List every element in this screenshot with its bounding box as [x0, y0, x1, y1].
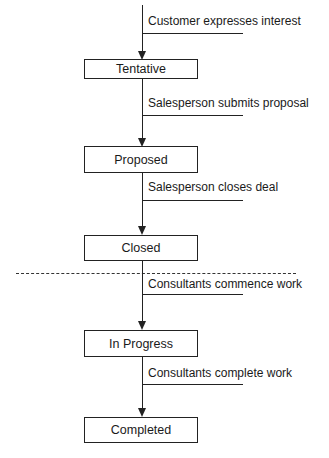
transition-label: Consultants complete work	[148, 366, 292, 380]
transition-branch	[142, 33, 243, 34]
transition-line	[142, 173, 143, 231]
transition-branch	[142, 115, 243, 116]
transition-label: Salesperson submits proposal	[148, 96, 309, 110]
transition-label: Consultants commence work	[148, 277, 302, 291]
state-proposed: Proposed	[84, 146, 198, 173]
arrow-down-icon	[138, 321, 146, 330]
transition-label: Customer expresses interest	[148, 14, 301, 28]
phase-divider	[16, 273, 296, 274]
transition-line	[142, 79, 143, 143]
transition-line	[142, 5, 143, 55]
state-tentative: Tentative	[84, 59, 198, 79]
arrow-down-icon	[138, 408, 146, 417]
transition-branch	[142, 384, 243, 385]
arrow-down-icon	[138, 226, 146, 235]
state-closed: Closed	[84, 235, 198, 261]
state-in-progress: In Progress	[84, 330, 198, 357]
transition-branch	[142, 294, 243, 295]
state-completed: Completed	[84, 417, 198, 443]
transition-label: Salesperson closes deal	[148, 180, 278, 194]
transition-branch	[142, 200, 243, 201]
